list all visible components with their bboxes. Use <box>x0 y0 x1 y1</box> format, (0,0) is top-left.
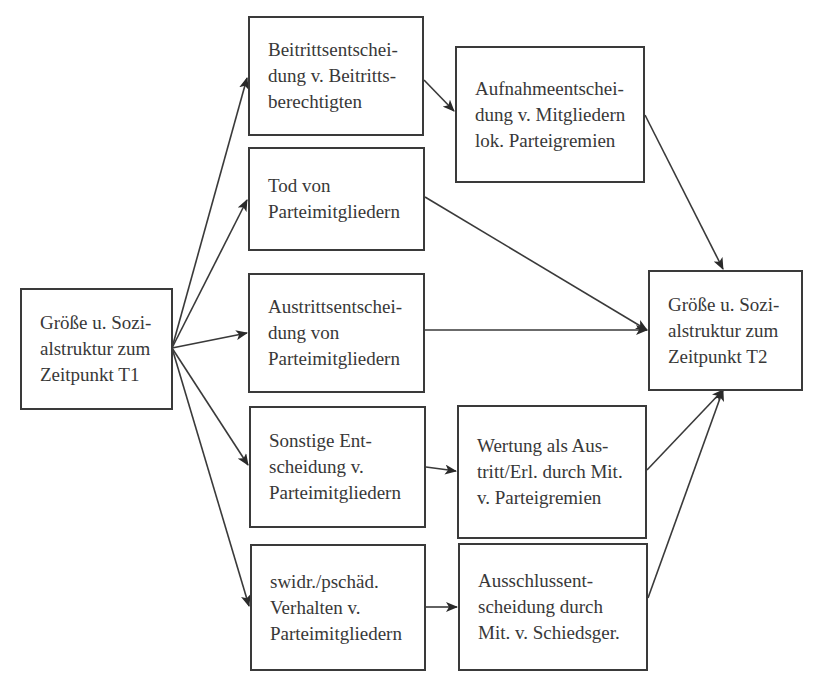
node-t2-line-2: alstruktur zum <box>668 318 793 344</box>
arrow-wertung-to-t2 <box>647 390 723 470</box>
arrow-tod-to-t2 <box>425 197 647 330</box>
node-t2: Größe u. Sozi- alstruktur zum Zeitpunkt … <box>648 270 803 391</box>
node-aufnahme-line-3: lok. Parteigremien <box>475 128 635 154</box>
node-sonstige-line-2: scheidung v. <box>269 454 416 480</box>
node-swidr-line-3: Parteimitgliedern <box>270 621 416 647</box>
node-swidr-line-2: Verhalten v. <box>270 595 416 621</box>
node-austritt: Austrittsentschei- dung von Parteimitgli… <box>248 273 425 393</box>
node-beitritt: Beitrittsentschei- dung v. Beitritts- be… <box>248 16 424 136</box>
node-beitritt-line-3: berechtigten <box>268 89 414 115</box>
node-wertung-line-3: v. Parteigremien <box>477 485 637 511</box>
node-t1-line-2: alstruktur zum <box>40 336 163 362</box>
node-sonstige-line-1: Sonstige Ent- <box>269 428 416 454</box>
node-swidr-line-1: swidr./pschäd. <box>270 569 416 595</box>
node-beitritt-line-1: Beitrittsentschei- <box>268 37 414 63</box>
arrow-t1-to-tod <box>172 200 247 348</box>
arrow-aufnahme-to-t2 <box>645 115 723 269</box>
node-wertung: Wertung als Aus- tritt/Erl. durch Mit. v… <box>457 405 647 539</box>
node-ausschluss-line-1: Ausschlussent- <box>478 568 638 594</box>
node-tod-line-1: Tod von <box>268 173 415 199</box>
node-swidr: swidr./pschäd. Verhalten v. Parteimitgli… <box>250 544 426 671</box>
arrow-sonstige-to-wertung <box>426 467 456 471</box>
node-sonstige: Sonstige Ent- scheidung v. Parteimitglie… <box>249 406 426 528</box>
node-t2-line-1: Größe u. Sozi- <box>668 292 793 318</box>
node-ausschluss-line-3: Mit. v. Schiedsger. <box>478 620 638 646</box>
arrow-t1-to-sonstige <box>172 348 248 465</box>
flow-diagram: Größe u. Sozi- alstruktur zum Zeitpunkt … <box>0 0 816 694</box>
node-t1: Größe u. Sozi- alstruktur zum Zeitpunkt … <box>20 288 173 410</box>
node-beitritt-line-2: dung v. Beitritts- <box>268 63 414 89</box>
node-aufnahme-line-2: dung v. Mitgliedern <box>475 102 635 128</box>
node-aufnahme: Aufnahmeentschei- dung v. Mitgliedern lo… <box>455 46 645 183</box>
node-tod: Tod von Parteimitgliedern <box>248 147 425 251</box>
arrow-beitritt-to-aufnahme <box>424 80 454 111</box>
node-ausschluss: Ausschlussent- scheidung durch Mit. v. S… <box>458 543 648 671</box>
arrow-t1-to-swidr <box>172 348 249 606</box>
node-wertung-line-1: Wertung als Aus- <box>477 433 637 459</box>
node-ausschluss-line-2: scheidung durch <box>478 594 638 620</box>
node-austritt-line-3: Parteimitgliedern <box>268 346 415 372</box>
node-sonstige-line-3: Parteimitgliedern <box>269 480 416 506</box>
arrow-ausschluss-to-t2 <box>648 390 723 598</box>
node-wertung-line-2: tritt/Erl. durch Mit. <box>477 459 637 485</box>
arrow-t1-to-austritt <box>172 333 247 348</box>
node-t2-line-3: Zeitpunkt T2 <box>668 344 793 370</box>
node-austritt-line-1: Austrittsentschei- <box>268 294 415 320</box>
node-t1-line-1: Größe u. Sozi- <box>40 310 163 336</box>
node-tod-line-2: Parteimitgliedern <box>268 199 415 225</box>
arrow-t1-to-beitritt <box>172 78 247 348</box>
node-aufnahme-line-1: Aufnahmeentschei- <box>475 76 635 102</box>
node-t1-line-3: Zeitpunkt T1 <box>40 362 163 388</box>
node-austritt-line-2: dung von <box>268 320 415 346</box>
